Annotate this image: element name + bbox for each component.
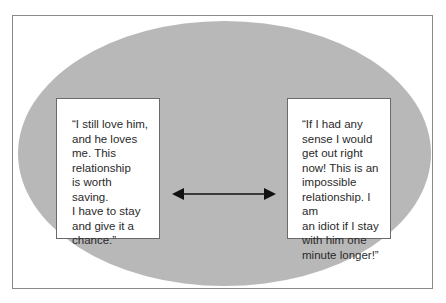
double-headed-arrow-icon: [172, 186, 276, 202]
diagram-frame: “I still love him, and he loves me. This…: [12, 15, 433, 289]
right-quote-text: “If I had any sense I would get out righ…: [302, 117, 380, 262]
left-quote-box: “I still love him, and he loves me. This…: [56, 98, 160, 239]
left-quote-text: “I still love him, and he loves me. This…: [72, 117, 149, 248]
right-quote-box: “If I had any sense I would get out righ…: [287, 98, 391, 239]
